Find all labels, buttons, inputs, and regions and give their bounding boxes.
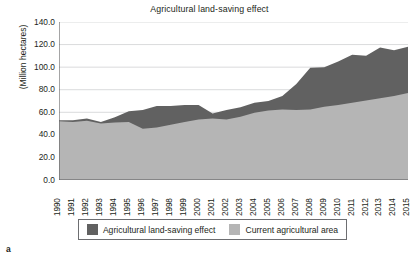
x-axis-tick-labels: 1990199119921993199419951996199719981999… bbox=[59, 182, 408, 216]
x-axis-tick-label: 1997 bbox=[151, 198, 160, 216]
y-axis-tick-labels: 0.020.040.060.080.0100.0120.0140.0 bbox=[18, 22, 55, 180]
y-axis-tick-label: 100.0 bbox=[23, 62, 55, 72]
x-axis-tick-label: 1995 bbox=[123, 198, 132, 216]
stacked-area-chart bbox=[59, 22, 408, 180]
x-axis-tick-label: 1992 bbox=[81, 198, 90, 216]
x-axis-tick-label: 2015 bbox=[402, 198, 411, 216]
x-axis-tick-label: 2003 bbox=[235, 198, 244, 216]
x-axis-tick-label: 2004 bbox=[249, 198, 258, 216]
x-axis-tick-label: 2010 bbox=[333, 198, 342, 216]
legend-item-current-area[interactable]: Current agricultural area bbox=[229, 224, 338, 235]
y-axis-tick-label: 140.0 bbox=[23, 17, 55, 27]
legend-item-saving-effect[interactable]: Agricultural land-saving effect bbox=[87, 224, 216, 235]
x-axis-tick-label: 1996 bbox=[137, 198, 146, 216]
x-axis-tick-label: 1990 bbox=[53, 198, 62, 216]
x-axis-tick-label: 2008 bbox=[305, 198, 314, 216]
x-axis-tick-label: 2012 bbox=[361, 198, 370, 216]
x-axis-tick-label: 2000 bbox=[193, 198, 202, 216]
x-axis-tick-label: 1994 bbox=[109, 198, 118, 216]
legend-label: Current agricultural area bbox=[245, 225, 338, 235]
legend-swatch-icon bbox=[87, 224, 98, 235]
y-axis-tick-label: 40.0 bbox=[23, 129, 55, 139]
x-axis-tick-label: 2001 bbox=[207, 198, 216, 216]
x-axis-tick-label: 2005 bbox=[263, 198, 272, 216]
x-axis-tick-label: 2002 bbox=[221, 198, 230, 216]
x-axis-tick-label: 2007 bbox=[291, 198, 300, 216]
x-axis-tick-label: 2014 bbox=[388, 198, 397, 216]
chart-title: Agricultural land-saving effect bbox=[0, 4, 419, 14]
figure-panel: Agricultural land-saving effect (Million… bbox=[0, 0, 419, 264]
x-axis-tick-label: 2011 bbox=[347, 199, 356, 216]
x-axis-tick-label: 1998 bbox=[165, 198, 174, 216]
legend-label: Agricultural land-saving effect bbox=[103, 225, 216, 235]
x-axis-tick-label: 1991 bbox=[67, 198, 76, 216]
x-axis-tick-label: 2006 bbox=[277, 198, 286, 216]
x-axis-tick-label: 2009 bbox=[319, 198, 328, 216]
x-axis-tick-label: 2013 bbox=[374, 198, 383, 216]
y-axis-tick-label: 0.0 bbox=[23, 175, 55, 185]
chart-legend: Agricultural land-saving effect Current … bbox=[78, 219, 347, 240]
panel-letter: a bbox=[6, 244, 11, 254]
x-axis-tick-label: 1999 bbox=[179, 198, 188, 216]
y-axis-tick-label: 80.0 bbox=[23, 84, 55, 94]
y-axis-tick-label: 120.0 bbox=[23, 39, 55, 49]
plot-area bbox=[59, 22, 408, 180]
y-axis-tick-label: 20.0 bbox=[23, 152, 55, 162]
area-current-agricultural-area bbox=[59, 93, 408, 180]
x-axis-tick-label: 1993 bbox=[95, 198, 104, 216]
legend-swatch-icon bbox=[229, 224, 240, 235]
y-axis-tick-label: 60.0 bbox=[23, 107, 55, 117]
